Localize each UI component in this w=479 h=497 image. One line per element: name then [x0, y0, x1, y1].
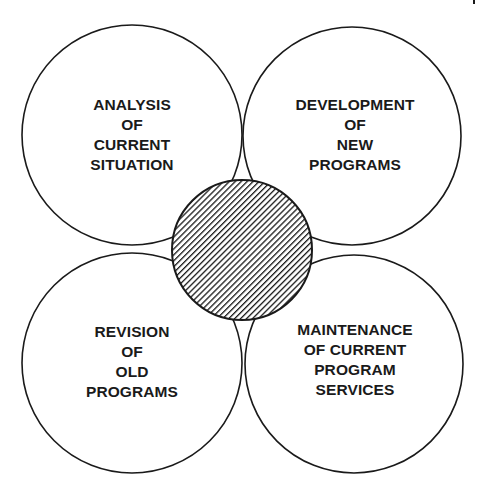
hub-circle [172, 180, 312, 320]
label-maintenance: MAINTENANCE OF CURRENT PROGRAM SERVICES [280, 320, 430, 400]
label-development: DEVELOPMENT OF NEW PROGRAMS [280, 95, 430, 175]
diagram-canvas [0, 0, 479, 497]
corner-mark [473, 0, 475, 4]
label-revision: REVISION OF OLD PROGRAMS [62, 322, 202, 402]
label-analysis: ANALYSIS OF CURRENT SITUATION [62, 95, 202, 175]
